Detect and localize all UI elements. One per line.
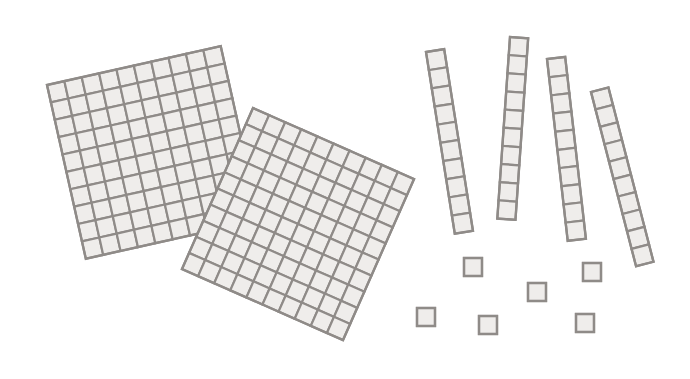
block-cell — [502, 128, 521, 147]
block-cell — [553, 111, 573, 131]
block-cell — [528, 283, 546, 301]
ten-rods-group — [426, 37, 653, 266]
block-cell — [506, 73, 525, 92]
hundred-flats-group — [47, 46, 414, 340]
block-cell — [501, 146, 520, 165]
block-cell — [547, 57, 567, 77]
ten-rod-3 — [547, 57, 586, 241]
block-cell — [499, 182, 518, 201]
base-ten-blocks-scene — [0, 0, 690, 379]
block-cell — [479, 316, 497, 334]
block-cell — [562, 184, 582, 204]
block-cell — [557, 148, 577, 168]
unit-cube-2 — [583, 263, 601, 281]
unit-cubes-group — [417, 258, 601, 334]
ten-rod-4 — [591, 87, 653, 266]
unit-cube-5 — [479, 316, 497, 334]
block-cell — [507, 55, 526, 74]
block-cell — [559, 166, 579, 186]
unit-cube-3 — [528, 283, 546, 301]
block-cell — [417, 308, 435, 326]
block-cell — [576, 314, 594, 332]
block-cell — [464, 258, 482, 276]
unit-cube-6 — [576, 314, 594, 332]
ten-rod-2 — [497, 37, 528, 220]
block-cell — [500, 164, 519, 183]
block-cell — [583, 263, 601, 281]
block-cell — [497, 200, 516, 219]
unit-cube-1 — [464, 258, 482, 276]
block-cell — [564, 202, 584, 222]
unit-cube-4 — [417, 308, 435, 326]
block-cell — [509, 37, 528, 56]
block-cell — [504, 110, 523, 129]
block-cell — [566, 221, 586, 241]
block-cell — [549, 75, 569, 95]
block-cell — [551, 93, 571, 113]
block-cell — [555, 130, 575, 150]
ten-rod-1 — [426, 49, 473, 234]
block-cell — [505, 91, 524, 110]
